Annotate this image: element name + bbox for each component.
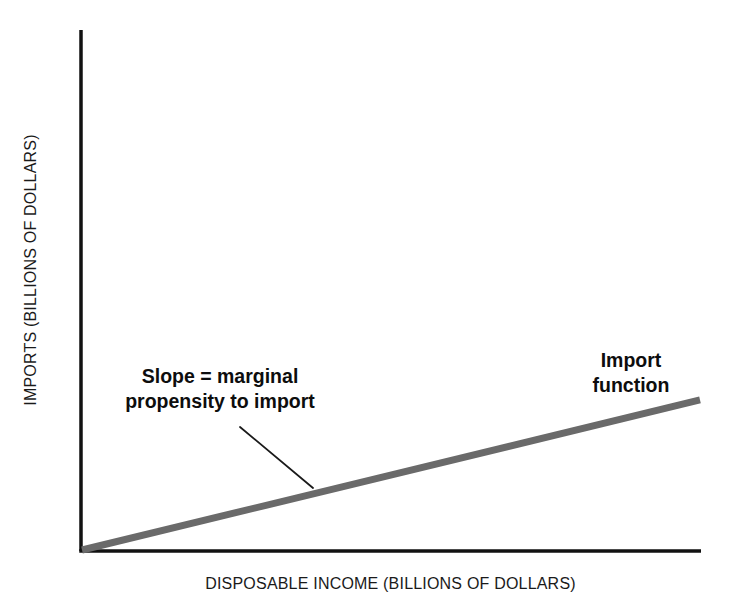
slope-callout-leader-line bbox=[240, 427, 313, 488]
slope-annotation-line-2: propensity to import bbox=[117, 389, 323, 414]
x-axis-title: DISPOSABLE INCOME (BILLIONS OF DOLLARS) bbox=[81, 575, 700, 593]
import-function-annotation-line-1: Import bbox=[581, 348, 681, 373]
y-axis-title: IMPORTS (BILLIONS OF DOLLARS) bbox=[22, 60, 44, 480]
import-function-annotation-line-2: function bbox=[581, 373, 681, 398]
chart-canvas bbox=[0, 0, 732, 609]
slope-annotation-line-1: Slope = marginal bbox=[117, 364, 323, 389]
import-function-series-line bbox=[82, 400, 700, 550]
import-function-annotation: Import function bbox=[581, 348, 681, 398]
import-function-chart: IMPORTS (BILLIONS OF DOLLARS) DISPOSABLE… bbox=[0, 0, 732, 609]
slope-annotation: Slope = marginal propensity to import bbox=[117, 364, 323, 414]
